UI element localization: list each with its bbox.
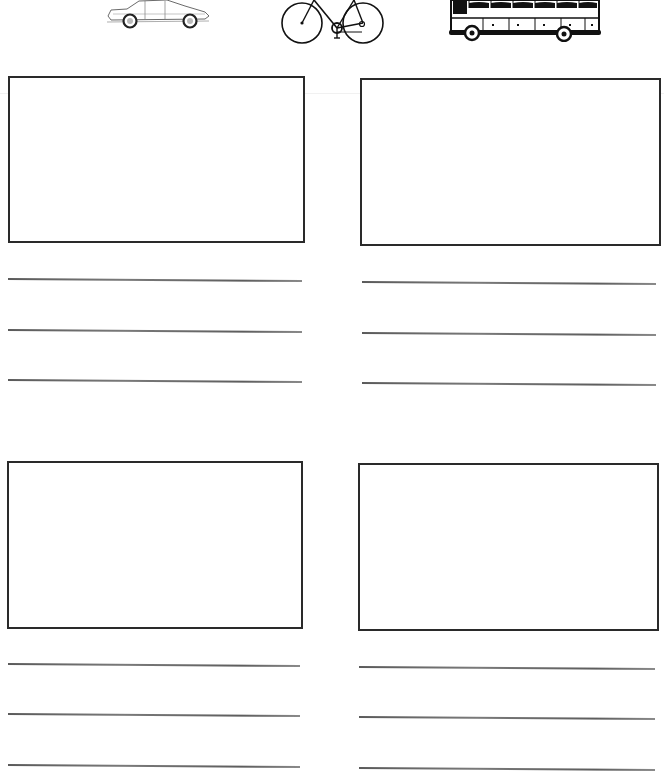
- writing-line[interactable]: [359, 767, 655, 771]
- writing-line[interactable]: [362, 382, 656, 386]
- drawing-panel-bottom-left[interactable]: [7, 461, 303, 629]
- writing-line[interactable]: [8, 713, 300, 717]
- car-icon: [105, 0, 215, 32]
- drawing-panel-top-left[interactable]: [8, 76, 305, 243]
- bus-icon: [447, 0, 603, 42]
- drawing-panel-bottom-right[interactable]: [358, 463, 659, 631]
- bicycle-icon: [280, 0, 386, 46]
- writing-line[interactable]: [359, 666, 655, 670]
- writing-line[interactable]: [8, 663, 300, 667]
- drawing-panel-top-right[interactable]: [360, 78, 661, 246]
- writing-line[interactable]: [8, 379, 302, 383]
- writing-line[interactable]: [8, 764, 300, 768]
- worksheet-page: [0, 0, 664, 777]
- writing-line[interactable]: [362, 332, 656, 336]
- writing-line[interactable]: [362, 281, 656, 285]
- writing-line[interactable]: [359, 716, 655, 720]
- writing-line[interactable]: [8, 278, 302, 282]
- writing-line[interactable]: [8, 329, 302, 333]
